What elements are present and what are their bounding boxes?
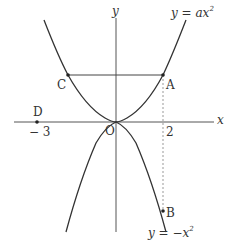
lower-equation-text: y = −x (148, 226, 189, 240)
lower-equation-exponent: 2 (189, 225, 193, 233)
upper-parabola-curve (44, 20, 186, 122)
point-a-label: A (166, 79, 175, 91)
parabola-diagram: y x O y = ax2 y = −x2 A C B D 2 − 3 (0, 0, 233, 247)
tick-label-2: 2 (166, 126, 174, 138)
diagram-graphics (0, 0, 233, 247)
y-axis-label: y (112, 5, 119, 17)
upper-equation-exponent: 2 (209, 5, 213, 13)
point-b-label: B (166, 207, 175, 219)
upper-curve-equation: y = ax2 (171, 7, 214, 19)
x-axis-label: x (217, 114, 224, 126)
tick-label-neg3: − 3 (29, 126, 51, 138)
point-d (35, 120, 39, 124)
point-c (66, 73, 70, 77)
point-b (161, 209, 165, 213)
point-d-label: D (33, 106, 43, 118)
point-c-label: C (57, 79, 66, 91)
point-a (161, 73, 165, 77)
origin-label: O (105, 125, 115, 137)
upper-equation-text: y = ax (171, 6, 209, 20)
lower-curve-equation: y = −x2 (148, 227, 194, 239)
